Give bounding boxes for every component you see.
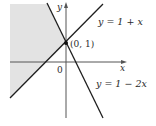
x-axis-label: x xyxy=(120,63,125,73)
shaded-region xyxy=(10,4,66,98)
region-graph: y x 0 (0, 1) y = 1 + x y = 1 − 2x xyxy=(0,0,156,126)
intersection-label: (0, 1) xyxy=(70,39,94,49)
line-y-equals-1-minus-2x xyxy=(47,3,103,118)
origin-label: 0 xyxy=(57,65,63,75)
y-axis-label: y xyxy=(56,2,63,12)
y-axis-arrow-icon xyxy=(64,2,68,8)
line1-label: y = 1 + x xyxy=(97,16,143,27)
line2-label: y = 1 − 2x xyxy=(95,78,147,89)
intersection-point xyxy=(64,41,68,45)
